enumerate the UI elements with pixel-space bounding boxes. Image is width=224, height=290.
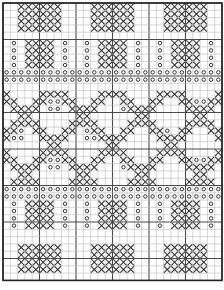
pattern-chart-container <box>0 0 224 290</box>
pattern-chart-svg <box>0 0 224 290</box>
